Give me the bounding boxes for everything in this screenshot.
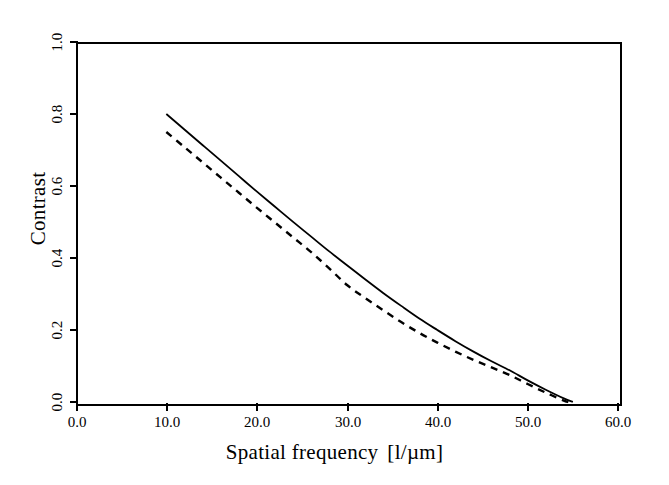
- x-tick-30: [347, 403, 349, 411]
- x-tick-label-0: 0.0: [68, 415, 87, 430]
- y-tick-0.6: [70, 185, 78, 187]
- x-tick-50: [527, 403, 529, 411]
- chart-figure: 0.0 10.0 20.0 30.0 40.0 50.0 60.0 0.0 0.…: [0, 0, 669, 485]
- x-axis-unit-text: [l/µm]: [387, 440, 443, 464]
- y-tick-0.8: [70, 113, 78, 115]
- x-tick-label-30: 30.0: [335, 415, 361, 430]
- x-axis-title-text: Spatial frequency: [226, 440, 379, 464]
- y-axis-title: Contrast: [26, 109, 51, 309]
- y-tick-label-0.4: 0.4: [50, 241, 65, 275]
- plot-area: [76, 42, 622, 406]
- x-tick-10: [166, 403, 168, 411]
- y-tick-label-0.0: 0.0: [50, 385, 65, 419]
- y-tick-label-0.2: 0.2: [50, 313, 65, 347]
- y-tick-label-1.0: 1.0: [50, 25, 65, 59]
- x-tick-label-50: 50.0: [515, 415, 541, 430]
- x-tick-0: [76, 403, 78, 411]
- x-tick-60: [617, 403, 619, 411]
- x-tick-label-10: 10.0: [154, 415, 180, 430]
- y-tick-0.2: [70, 329, 78, 331]
- x-tick-label-20: 20.0: [244, 415, 270, 430]
- x-tick-label-60: 60.0: [605, 415, 631, 430]
- y-tick-label-0.8: 0.8: [50, 97, 65, 131]
- x-tick-40: [437, 403, 439, 411]
- x-tick-20: [256, 403, 258, 411]
- x-axis-title: Spatial frequency[l/µm]: [0, 440, 669, 465]
- y-tick-0.0: [70, 401, 78, 403]
- x-tick-label-40: 40.0: [425, 415, 451, 430]
- y-tick-label-0.6: 0.6: [50, 169, 65, 203]
- y-tick-0.4: [70, 257, 78, 259]
- y-tick-1.0: [70, 41, 78, 43]
